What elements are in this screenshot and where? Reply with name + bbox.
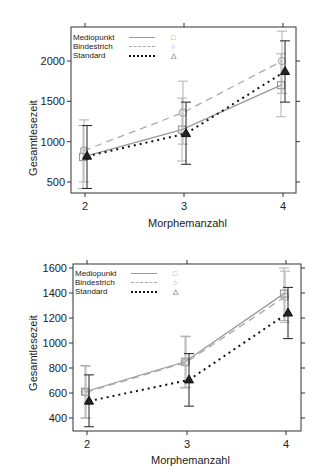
dotted-line-swatch <box>129 55 155 57</box>
series-mediopunkt <box>78 54 286 189</box>
x-tick-label: 3 <box>184 438 190 450</box>
y-axis-label: Gesamtlesezeit <box>27 98 39 178</box>
chart-top: 500100015002000234 Gesamtlesezeit Morphe… <box>0 0 325 237</box>
y-tick-label: 800 <box>49 362 67 374</box>
solid-line-swatch <box>131 273 157 274</box>
y-tick-label: 2000 <box>41 55 65 67</box>
solid-line-swatch <box>129 37 155 38</box>
legend: Mediopunkt □ Bindestrich ○ Standard △ <box>73 33 177 60</box>
x-axis-label: Morphemanzahl <box>151 454 230 466</box>
x-tick-label: 2 <box>84 438 90 450</box>
legend-label: Bindestrich <box>73 42 129 51</box>
y-tick-label: 500 <box>47 176 65 188</box>
y-tick-label: 1200 <box>43 312 67 324</box>
legend-label: Standard <box>75 287 131 296</box>
legend-item-mediopunkt: Mediopunkt □ <box>73 33 177 42</box>
legend-item-standard: Standard △ <box>75 287 179 296</box>
y-tick-label: 1000 <box>41 136 65 148</box>
triangle-marker-icon: △ <box>169 51 177 60</box>
dotted-line-swatch <box>131 291 157 293</box>
series-standard <box>82 41 290 189</box>
x-axis-label: Morphemanzahl <box>148 217 227 229</box>
circle-marker-icon: ○ <box>169 42 177 51</box>
legend-item-bindestrich: Bindestrich ○ <box>75 278 179 287</box>
square-marker-icon: □ <box>171 269 179 278</box>
legend-item-standard: Standard △ <box>73 51 177 60</box>
y-tick-label: 1000 <box>43 337 67 349</box>
y-tick-label: 1500 <box>41 95 65 107</box>
y-tick-label: 1400 <box>43 287 67 299</box>
legend-label: Mediopunkt <box>75 269 131 278</box>
x-tick-label: 2 <box>82 200 88 212</box>
dashed-line-swatch <box>129 46 155 47</box>
square-marker-icon: □ <box>169 33 177 42</box>
x-tick-label: 3 <box>181 200 187 212</box>
legend-label: Standard <box>73 51 129 60</box>
y-axis-label: Gesamtlesezeit <box>27 313 39 393</box>
x-tick-label: 4 <box>280 200 286 212</box>
x-tick-label: 4 <box>283 438 289 450</box>
legend: Mediopunkt □ Bindestrich ○ Standard △ <box>75 269 179 296</box>
y-tick-label: 600 <box>49 387 67 399</box>
legend-label: Bindestrich <box>75 278 131 287</box>
triangle-marker-icon: △ <box>171 287 179 296</box>
y-tick-label: 400 <box>49 412 67 424</box>
legend-item-bindestrich: Bindestrich ○ <box>73 42 177 51</box>
legend-label: Mediopunkt <box>73 33 129 42</box>
circle-marker-icon: ○ <box>171 278 179 287</box>
dashed-line-swatch <box>131 282 157 283</box>
legend-item-mediopunkt: Mediopunkt □ <box>75 269 179 278</box>
chart-bottom: 4006008001000120014001600234 Gesamtlesez… <box>0 237 325 474</box>
y-tick-label: 1600 <box>43 262 67 274</box>
